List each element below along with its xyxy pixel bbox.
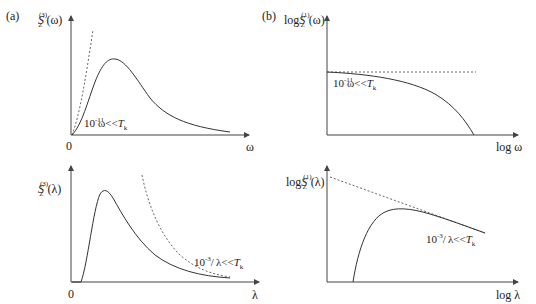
annotation-slash: /	[211, 256, 214, 268]
panel-b-annotation: 10-11ω<<Tk	[333, 78, 376, 89]
y-label-log: log	[286, 175, 301, 189]
figure-canvas	[0, 0, 536, 304]
annotation-rest: ω<<	[98, 117, 118, 129]
panel-d-y-label: logS(1)Z(λ)	[286, 176, 334, 188]
annotation-prefix: 10	[333, 77, 344, 89]
y-label-arg: (λ)	[311, 175, 325, 189]
y-label-arg: (ω)	[309, 13, 325, 27]
annotation-Tsub: k	[124, 124, 128, 132]
annotation-Tsub: k	[373, 84, 377, 92]
annotation-prefix: 10	[426, 233, 437, 245]
y-label-sub: Z	[303, 183, 307, 191]
annotation-Tsub: k	[472, 240, 476, 248]
y-label-arg: (ω)	[46, 13, 62, 27]
panel-c-origin: 0	[68, 288, 74, 300]
annotation-rest: λ<<	[216, 256, 234, 268]
annotation-Tsub: k	[240, 263, 244, 271]
panel-a-origin: 0	[66, 140, 72, 152]
y-label-sub: Z	[39, 190, 43, 198]
annotation-prefix: 10	[84, 117, 95, 129]
panel-a-x-label: ω	[246, 141, 254, 153]
panel-d	[327, 166, 518, 282]
panel-d-solid-curve	[353, 209, 485, 282]
panel-a-tag: (a)	[6, 10, 19, 22]
panel-c-annotation: 10-3/λ<<Tk	[194, 257, 243, 268]
panel-a-y-label: S(3)Z(ω)	[38, 14, 72, 26]
panel-d-annotation: 10-3/λ<<Tk	[426, 234, 475, 245]
panel-b-y-label: logS(1)Z(ω)	[284, 14, 334, 26]
panel-c-x-label: λ	[252, 289, 258, 301]
panel-a-annotation: 10-11ω<<Tk	[84, 118, 127, 129]
annotation-prefix: 10	[194, 256, 205, 268]
y-label-log: log	[284, 13, 299, 27]
y-label-arg: (λ)	[47, 182, 61, 196]
y-label-sub: Z	[38, 21, 42, 29]
annotation-rest: ω<<	[347, 77, 367, 89]
panel-c-solid-curve	[72, 191, 230, 282]
panel-b-tag: (b)	[262, 10, 276, 22]
annotation-rest: λ<<	[448, 233, 466, 245]
y-label-sub: Z	[301, 21, 305, 29]
panel-d-x-label: log λ	[496, 289, 520, 301]
panel-b	[327, 16, 518, 135]
annotation-slash: /	[443, 233, 446, 245]
panel-b-x-label: log ω	[496, 141, 522, 153]
panel-c-y-label: S(3)Z(λ)	[38, 183, 70, 195]
